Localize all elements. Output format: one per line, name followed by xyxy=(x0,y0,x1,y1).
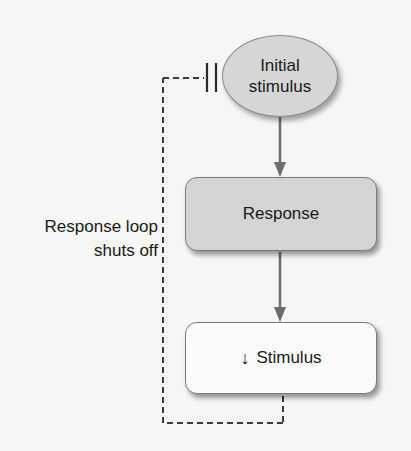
initial-stimulus-line1: Initial xyxy=(249,55,311,76)
response-node: Response xyxy=(185,177,377,251)
inhibition-bars-icon xyxy=(207,63,216,92)
arrow-stimulus-to-response xyxy=(274,117,286,177)
initial-stimulus-node: Initial stimulus xyxy=(222,35,338,117)
arrow-response-to-stimulus xyxy=(274,252,286,322)
loop-shutoff-label: Response loop shuts off xyxy=(45,215,158,263)
loop-label-line1: Response loop xyxy=(45,215,158,239)
loop-label-line2: shuts off xyxy=(45,239,158,263)
reduced-stimulus-node: ↓ Stimulus xyxy=(185,322,377,394)
reduced-stimulus-label: Stimulus xyxy=(256,348,321,368)
down-arrow-icon: ↓ xyxy=(240,348,249,369)
response-label: Response xyxy=(243,204,320,224)
initial-stimulus-line2: stimulus xyxy=(249,76,311,97)
